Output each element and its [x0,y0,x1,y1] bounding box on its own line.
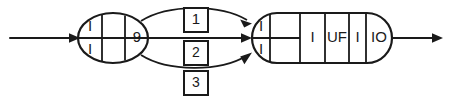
edge-label-box-2[interactable]: 2 [184,41,208,65]
diagram-canvas: I I 9 [0,0,451,101]
left-cell-1-bottom-label: I [88,40,92,57]
left-cell-3: 9 [133,28,141,45]
edge-label-box-1[interactable]: 1 [184,8,208,32]
right-cell-4: UF [327,28,347,45]
diagram-svg: I I 9 [0,0,451,101]
edge-label-2: 2 [192,44,200,60]
right-cell-6: IO [371,28,387,45]
right-cell-4-label: UF [327,28,347,45]
right-cell-5: I [355,28,359,45]
edge-label-1: 1 [192,10,200,27]
exit-arrow [392,33,443,42]
right-cell-6-label: IO [371,28,387,45]
left-cell-1-top-label: I [88,17,92,34]
left-cell-3-label: 9 [133,28,141,45]
right-state-node[interactable]: I I I UF I IO [252,13,392,63]
right-cell-3-label: I [310,28,314,45]
right-cell-5-label: I [355,28,359,45]
left-state-node[interactable]: I I 9 [78,13,148,63]
edge-label-box-3[interactable]: 3 [184,71,208,95]
right-cell-1-top-label: I [259,17,263,34]
edge-label-3: 3 [192,74,200,90]
right-cell-3: I [310,28,314,45]
entry-arrow [10,33,80,43]
right-cell-1-bottom-label: I [259,40,263,57]
